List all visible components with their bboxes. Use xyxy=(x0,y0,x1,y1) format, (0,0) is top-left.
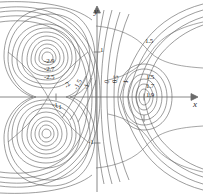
contour-label-minus-2-9: -2.9 xyxy=(44,58,54,65)
contour-label-1-7: 1.7 xyxy=(146,83,154,90)
contour-label-minus-2-5: -2.5 xyxy=(44,74,54,81)
axes xyxy=(0,6,198,192)
y-tick-label-1: 1 xyxy=(100,47,103,54)
contour-label-1-5-saddle: 1.5 xyxy=(145,38,153,45)
x-axis-label: x xyxy=(193,100,197,109)
contour-plot-figure: y x 1 -1 -1 -2.9 -2.7 -2.5 -2 -1.5 -1 0 … xyxy=(0,0,203,195)
y-axis-label: y xyxy=(94,7,98,16)
contour-label-minus-2-7: -2.7 xyxy=(44,66,54,73)
contour-label-1-5-nest: 1.5 xyxy=(146,74,154,81)
contour-label-minus-1-saddle: -1 xyxy=(56,104,61,111)
contour-label-1-9: 1.9 xyxy=(146,92,154,99)
y-tick-label-minus-1: -1 xyxy=(88,139,93,146)
contour-curves xyxy=(0,2,203,194)
contour-plot-canvas xyxy=(0,0,203,195)
